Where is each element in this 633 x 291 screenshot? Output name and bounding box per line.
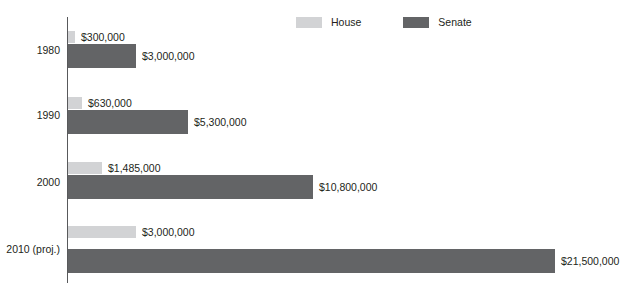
bar-house-2 bbox=[68, 162, 102, 174]
value-label-senate-3: $21,500,000 bbox=[561, 255, 619, 267]
bar-house-0 bbox=[68, 31, 75, 43]
bar-chart: House Senate 1980$300,000$3,000,0001990$… bbox=[0, 0, 633, 291]
bar-group-house-1: $630,000 bbox=[68, 97, 132, 109]
value-label-house-2: $1,485,000 bbox=[108, 162, 161, 174]
bar-group-house-2: $1,485,000 bbox=[68, 162, 161, 174]
category-label-3: 2010 (proj.) bbox=[6, 243, 60, 255]
bar-senate-1 bbox=[68, 110, 188, 134]
bar-house-1 bbox=[68, 97, 82, 109]
value-label-house-3: $3,000,000 bbox=[142, 226, 195, 238]
bar-senate-3 bbox=[68, 249, 555, 273]
bar-senate-0 bbox=[68, 44, 136, 68]
bar-group-house-0: $300,000 bbox=[68, 31, 125, 43]
category-label-2: 2000 bbox=[37, 176, 60, 188]
bar-group-senate-0: $3,000,000 bbox=[68, 44, 195, 68]
value-label-senate-0: $3,000,000 bbox=[142, 50, 195, 62]
bar-group-senate-1: $5,300,000 bbox=[68, 110, 247, 134]
bar-group-senate-2: $10,800,000 bbox=[68, 175, 377, 199]
value-label-senate-2: $10,800,000 bbox=[319, 181, 377, 193]
category-label-1: 1990 bbox=[37, 109, 60, 121]
bar-group-senate-3: $21,500,000 bbox=[68, 249, 619, 273]
value-label-senate-1: $5,300,000 bbox=[194, 116, 247, 128]
bar-senate-2 bbox=[68, 175, 313, 199]
bar-group-house-3: $3,000,000 bbox=[68, 226, 195, 238]
value-label-house-0: $300,000 bbox=[81, 31, 125, 43]
value-label-house-1: $630,000 bbox=[88, 97, 132, 109]
category-label-0: 1980 bbox=[37, 44, 60, 56]
bar-house-3 bbox=[68, 226, 136, 238]
plot-area: 1980$300,000$3,000,0001990$630,000$5,300… bbox=[0, 0, 633, 291]
